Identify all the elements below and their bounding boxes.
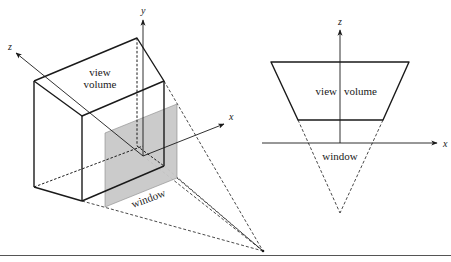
right-x-axis-label: x [442, 138, 448, 149]
view-volume-label-line2: volume [84, 78, 117, 90]
right-2d-diagram: z x view volume window [262, 16, 448, 213]
right-z-axis-label: z [337, 16, 342, 27]
view-volume-label-line1: view [89, 66, 110, 78]
z-axis [16, 53, 143, 156]
window-plane [105, 104, 177, 207]
y-axis-label: y [140, 5, 146, 16]
right-projector-lines [298, 120, 383, 213]
perspective-view-volume-diagram: y z x view volume window z x view volume… [0, 0, 451, 262]
left-3d-diagram: y z x view volume window [7, 5, 264, 252]
x-axis-label: x [228, 111, 234, 122]
z-axis-label: z [7, 41, 12, 52]
right-volume-label: volume [344, 85, 377, 97]
right-window-label: window [322, 150, 358, 162]
center-of-projection [262, 250, 265, 253]
right-view-label: view [316, 85, 337, 97]
